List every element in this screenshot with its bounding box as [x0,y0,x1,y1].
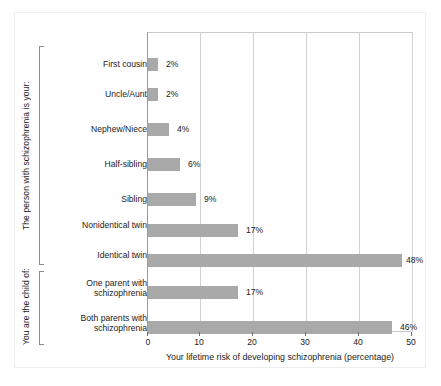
category-label: First cousin [45,59,147,69]
x-axis-title: Your lifetime risk of developing schizop… [147,352,413,362]
category-label: Identical twin [45,250,147,260]
category-label: Half-sibling [45,159,147,169]
x-tick-label: 30 [300,337,310,347]
bar-value-label: 2% [166,58,178,71]
bar [148,58,158,71]
category-label: Sibling [45,194,147,204]
category-label: Both parents with schizophrenia [45,313,147,333]
group-bracket-parents [39,271,44,345]
x-tick-mark [411,332,412,336]
x-tick-mark [358,332,359,336]
bar-value-label: 17% [246,286,263,299]
gridline [306,33,307,331]
x-axis: 0 10 20 30 40 50 Your lifetime risk of d… [147,332,413,368]
x-tick-label: 20 [247,337,257,347]
group-bracket-relatives [39,46,44,265]
bar-value-label: 17% [246,224,263,237]
gridline [412,33,413,331]
x-tick-mark [147,332,148,336]
x-tick-mark [305,332,306,336]
bar [148,286,238,299]
x-tick-label: 0 [146,337,151,347]
category-label: Uncle/Aunt [45,89,147,99]
bar-value-label: 6% [188,158,200,171]
gridline [359,33,360,331]
x-tick-mark [199,332,200,336]
bar [148,88,158,101]
category-label-column: First cousin Uncle/Aunt Nephew/Niece Hal… [45,13,147,367]
x-tick-label: 50 [406,337,416,347]
group-axis-label-relatives: The person with schizophrenia is your: [21,46,31,265]
bar-value-label: 4% [177,123,189,136]
bar-value-label: 2% [166,88,178,101]
category-label: Nephew/Niece [45,124,147,134]
bar [148,254,402,267]
x-tick-mark [252,332,253,336]
bar-value-label: 9% [204,193,216,206]
bar [148,224,238,237]
chart-figure: The person with schizophrenia is your: Y… [14,12,426,368]
bar [148,193,196,206]
group-axis-label-parents: You are the child of: [21,271,31,345]
x-tick-label: 10 [194,337,204,347]
category-label: Nonidentical twin [45,220,147,230]
bar [148,123,169,136]
bar-value-label: 48% [406,254,423,267]
category-label: One parent with schizophrenia [45,278,147,298]
x-tick-label: 40 [353,337,363,347]
bar [148,158,180,171]
plot-area: 2% 2% 4% 6% 9% 17% 48% 17% 46% [147,32,413,332]
